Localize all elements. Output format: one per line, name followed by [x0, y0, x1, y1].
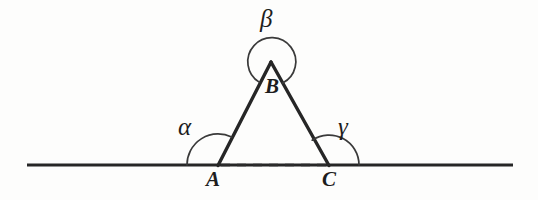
side-bc	[271, 62, 329, 166]
point-label-b: B	[265, 76, 279, 97]
angle-label-gamma: γ	[338, 114, 348, 139]
angle-label-alpha: α	[178, 114, 191, 139]
point-label-c: C	[322, 169, 336, 190]
angle-label-beta: β	[260, 6, 272, 31]
side-ab	[218, 62, 271, 166]
point-label-a: A	[206, 169, 220, 190]
geometry-figure: β B α γ A C	[0, 0, 538, 200]
